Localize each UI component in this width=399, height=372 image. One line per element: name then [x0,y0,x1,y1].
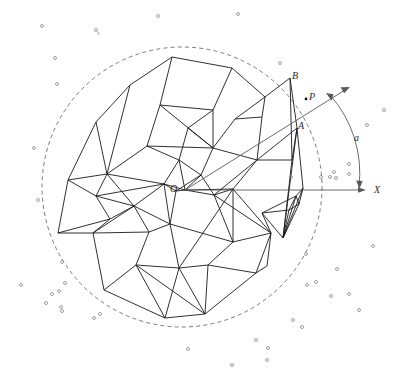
scatter-dot [267,347,270,350]
scatter-dot [61,310,64,313]
scatter-dot [336,268,339,271]
mesh-edge [136,265,179,268]
mesh-edge [235,97,265,119]
scatter-dot [348,163,351,166]
mesh-edge [165,268,179,318]
mesh-edge [93,232,149,233]
mesh-edge [297,128,303,188]
mesh-edge [170,224,233,242]
mesh-edge [164,160,179,184]
mesh-edge [235,117,262,119]
mesh-edge [233,233,271,242]
figure-canvas: OBPAaXs [0,0,399,372]
point-p-marker [305,98,308,101]
scatter-dot [348,293,351,296]
mesh-edge [262,210,289,213]
scatter-dot [266,359,269,362]
mesh-edge [213,148,257,160]
mesh-edge [232,68,265,97]
scatter-dot [330,295,333,298]
scatter-dot [64,282,67,285]
scatter-dot [51,293,54,296]
point-p-label: P [309,92,315,102]
triangular-mesh [58,57,303,318]
mesh-edge [68,174,107,180]
mesh-edge [136,265,165,318]
figure-drawing [0,0,399,372]
scatter-dot [301,326,304,329]
mesh-edge [179,160,201,175]
mesh-edge [136,232,149,265]
mesh-edge [179,265,208,268]
point-a-label: A [298,121,304,131]
scatter-dot [366,124,369,127]
mesh-edge [265,78,290,97]
mesh-edge [205,273,256,314]
polar-ray [185,87,350,190]
mesh-edge [283,196,296,238]
mesh-edge [170,224,179,268]
mesh-edge [104,265,136,290]
scatter-dot [157,15,160,18]
scatter-dot [41,25,44,28]
mesh-edge [179,128,188,160]
scatter-dot [93,317,96,320]
scatter-dot [56,83,59,86]
mesh-edge [68,122,96,180]
scatter-dot [237,13,240,16]
mesh-edge [96,122,107,174]
mesh-edge [96,174,107,196]
origin-label: O [170,184,177,194]
scatter-dot [372,245,375,248]
mesh-edge [205,265,208,314]
scatter-dot [255,339,258,342]
mesh-edge [213,119,235,148]
mesh-edge [262,97,265,117]
scatter-dot [61,261,64,264]
scatter-dot [231,364,234,367]
marked-points [305,98,308,101]
mesh-edge [136,265,205,314]
mesh-edge [214,195,233,242]
scatter-dot [33,147,36,150]
scatter-dot [292,319,295,322]
scatter-dot [60,306,63,309]
xaxis-label: X [374,185,380,195]
mesh-edge [179,268,205,314]
mesh-edge [96,184,164,196]
scatter-dot [333,171,336,174]
mesh-edge [262,196,296,213]
scatter-dot [329,176,332,179]
mesh-edge [165,314,205,318]
mesh-edge [213,68,232,110]
scatter-dot [348,173,351,176]
mesh-edge [68,180,96,196]
mesh-edge [149,224,170,232]
mesh-edge [160,105,213,110]
scatter-dot [54,57,57,60]
mesh-edge [147,146,179,160]
mesh-edge [58,180,68,233]
scatter-dot [20,284,23,287]
scatter-dot [306,284,309,287]
mesh-edge [147,105,160,146]
scatter-dot [279,62,282,65]
mesh-edge [257,117,262,160]
mesh-edge [208,265,256,273]
stray-label: s [97,30,100,37]
scatter-dot [45,302,48,305]
mesh-edge [201,175,214,195]
scatter-dot [320,176,323,179]
mesh-edge [201,148,213,175]
mesh-edge [93,233,104,290]
mesh-edge [208,242,233,265]
scatter-dot [37,199,40,202]
mesh-edge [160,105,213,148]
mesh-edge [185,175,201,190]
point-b-label: B [292,71,298,81]
mesh-edge [104,290,165,318]
arc-arrow-bottom [356,180,362,189]
scatter-dot [99,313,102,316]
mesh-edge [107,174,164,184]
mesh-edge [147,146,213,148]
